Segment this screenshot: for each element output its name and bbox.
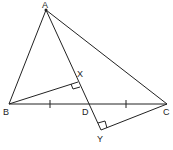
segment-ac [46, 10, 167, 104]
segment-ay [46, 10, 101, 130]
right-angle-mark-x [71, 84, 80, 89]
label-x: X [77, 69, 83, 79]
label-c: C [163, 107, 170, 117]
segment-cy [101, 104, 167, 130]
segment-ab [9, 10, 46, 104]
label-y: Y [97, 134, 103, 144]
label-d: D [82, 107, 89, 117]
label-b: B [3, 107, 9, 117]
geometry-diagram: A B C D X Y [0, 0, 173, 150]
label-a: A [42, 0, 48, 10]
segment-bx [9, 82, 78, 104]
